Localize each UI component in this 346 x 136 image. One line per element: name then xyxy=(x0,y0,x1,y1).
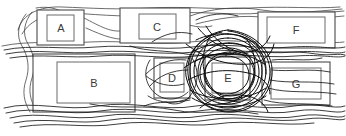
labeled-box-f[interactable]: F xyxy=(258,12,335,48)
bottom-wave-stroke-3 xyxy=(14,118,345,123)
cluster-tail-stroke-2 xyxy=(272,58,322,60)
box-g-label: G xyxy=(292,78,301,90)
labeled-box-c[interactable]: C xyxy=(120,8,190,43)
sketch-svg: ACFBDEG xyxy=(0,0,346,136)
labeled-box-a[interactable]: A xyxy=(37,10,84,45)
box-d-label: D xyxy=(168,72,176,84)
box-e-label: E xyxy=(224,72,231,84)
cluster-tail-stroke-6 xyxy=(144,100,190,106)
sketch-canvas: ACFBDEG xyxy=(0,0,346,136)
box-f-label: F xyxy=(293,24,300,36)
labeled-box-b[interactable]: B xyxy=(33,54,135,112)
box-c-label: C xyxy=(153,21,161,33)
box-a-label: A xyxy=(57,22,65,34)
left-edge-stroke-0 xyxy=(19,14,30,112)
box-b-label: B xyxy=(90,77,97,89)
bottom-wave-stroke-2 xyxy=(10,114,345,118)
cluster-tail-stroke-8 xyxy=(196,14,238,20)
bottom-wave-stroke-4 xyxy=(20,122,314,127)
